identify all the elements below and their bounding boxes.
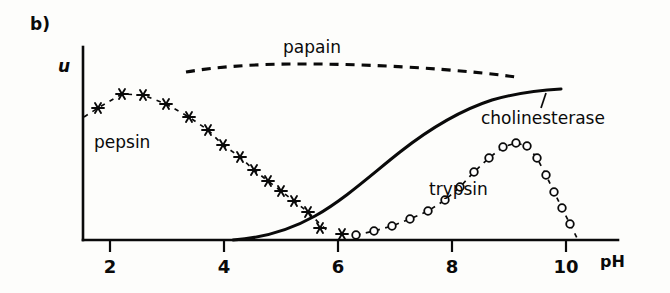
series-trypsin: trypsin (352, 139, 578, 240)
panel-label: b) (30, 14, 50, 34)
tick-label-4: 4 (218, 256, 231, 277)
x-axis-tick-labels: 2 4 6 8 10 (104, 256, 579, 277)
tick-label-10: 10 (553, 256, 578, 277)
papain-curve (186, 64, 516, 77)
x-axis-ticks (110, 240, 566, 252)
y-axis-title: u (58, 56, 70, 76)
series-label-trypsin: trypsin (429, 179, 488, 199)
series-papain: papain (186, 37, 516, 77)
ph-activity-chart: b) u pH 2 4 6 8 10 papain (0, 0, 670, 293)
series-pepsin: pepsin (84, 89, 348, 239)
figure-panel: b) u pH 2 4 6 8 10 papain (0, 0, 670, 293)
series-label-cholinesterase: cholinesterase (481, 108, 605, 128)
pepsin-markers (92, 89, 348, 239)
tick-label-6: 6 (332, 256, 345, 277)
series-cholinesterase: cholinesterase (233, 89, 605, 240)
tick-label-2: 2 (104, 256, 117, 277)
series-label-pepsin: pepsin (94, 132, 150, 152)
pepsin-curve (84, 94, 330, 233)
tick-label-8: 8 (446, 256, 459, 277)
x-axis-title: pH (600, 252, 625, 271)
series-label-papain: papain (283, 37, 341, 57)
cholinesterase-leader-line (541, 93, 546, 108)
